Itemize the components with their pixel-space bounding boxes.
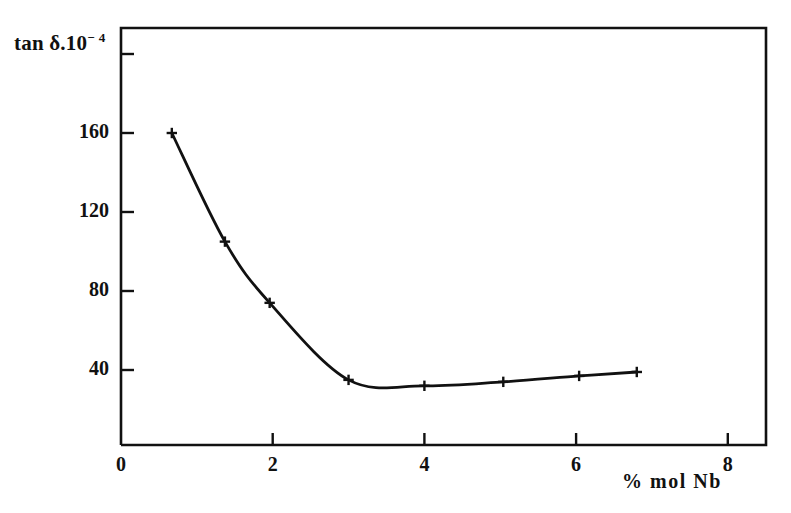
y-axis-tick-label: 160: [37, 120, 109, 143]
x-axis-tick-label: 4: [394, 453, 454, 476]
x-axis-tick-label: 0: [91, 453, 151, 476]
data-point-marker: [574, 371, 584, 381]
axes-group: [121, 28, 766, 445]
data-point-marker: [632, 367, 642, 377]
data-point-marker: [419, 381, 429, 391]
data-curve-group: [172, 133, 637, 388]
plot-area: [0, 0, 791, 513]
x-axis-tick-label: 6: [546, 453, 606, 476]
x-axis-tick-label: 8: [698, 453, 758, 476]
data-curve: [172, 133, 637, 388]
data-point-marker: [167, 128, 177, 138]
y-axis-tick-label: 80: [37, 278, 109, 301]
plot-frame: [121, 28, 766, 445]
y-axis-tick-label: 120: [37, 199, 109, 222]
data-point-marker: [498, 377, 508, 387]
x-axis-tick-label: 2: [243, 453, 303, 476]
figure-canvas: tan δ.10− 4 % mol Nb 408012016002468: [0, 0, 791, 513]
data-markers-group: [167, 128, 642, 391]
y-axis-tick-label: 40: [37, 357, 109, 380]
